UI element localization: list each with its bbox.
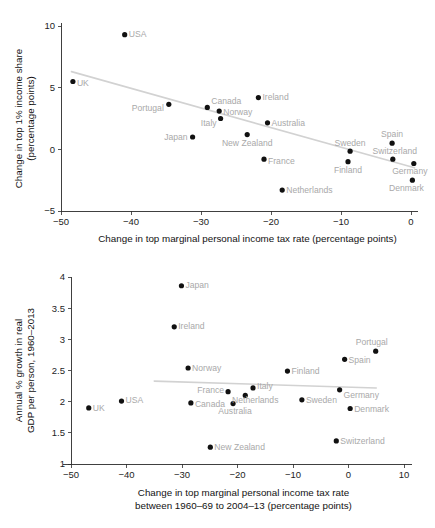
data-point-label: France [197, 385, 224, 395]
y-tick-label: 1 [60, 458, 65, 469]
data-point-label: USA [126, 395, 144, 405]
y-axis-title-line2: GDP per person, 1960–2013 [25, 307, 36, 433]
data-point[interactable] [285, 369, 290, 374]
data-point[interactable] [119, 398, 124, 403]
y-tick-label: −5 [44, 205, 55, 216]
data-point[interactable] [342, 357, 347, 362]
data-point-label: Ireland [178, 321, 204, 331]
y-tick-label: 4 [60, 271, 65, 282]
y-tick-label: 10 [44, 20, 55, 31]
y-tick-label: 2 [60, 396, 65, 407]
x-tick-label: −40 [123, 216, 139, 227]
y-axis-title-line1: Annual % growth in real [13, 319, 24, 422]
data-point[interactable] [186, 365, 191, 370]
data-point[interactable] [218, 116, 223, 121]
data-point[interactable] [250, 385, 255, 390]
data-point[interactable] [225, 389, 230, 394]
data-point-label: USA [129, 29, 147, 39]
data-point[interactable] [188, 400, 193, 405]
data-point-label: Australia [218, 406, 252, 416]
x-tick-label: 10 [399, 469, 410, 480]
data-point-label: Japan [164, 132, 188, 142]
y-tick-label: 3 [60, 334, 65, 345]
data-point-label: Sweden [306, 395, 337, 405]
x-tick-label: −10 [333, 216, 349, 227]
data-point-label: New Zealand [222, 138, 273, 148]
data-point[interactable] [172, 324, 177, 329]
data-point[interactable] [190, 134, 195, 139]
data-point[interactable] [122, 32, 127, 37]
data-point-label: Italy [257, 381, 273, 391]
y-tick-label: 1.5 [52, 427, 65, 438]
data-point[interactable] [299, 397, 304, 402]
data-point-label: Netherlands [286, 185, 332, 195]
data-point-label: Spain [349, 355, 371, 365]
data-point-label: Italy [201, 118, 217, 128]
x-tick-label: −20 [229, 469, 245, 480]
figure-page: 1050−5−50−40−30−20−100UKUSAPortugalJapan… [0, 0, 435, 528]
y-axis-title-line1: Change in top 1% income share [13, 48, 24, 188]
data-point[interactable] [334, 438, 339, 443]
data-point-label: Australia [272, 118, 306, 128]
data-point[interactable] [348, 406, 353, 411]
data-point-label: Sweden [335, 138, 366, 148]
data-point[interactable] [337, 387, 342, 392]
data-point[interactable] [205, 105, 210, 110]
data-point-label: Switzerland [373, 146, 418, 156]
data-point-label: Norway [223, 107, 253, 117]
x-axis-title-line1: Change in top marginal personal income t… [138, 487, 350, 498]
x-axis-title: Change in top marginal personal income t… [98, 233, 396, 244]
data-point-label: Japan [185, 280, 209, 290]
data-point[interactable] [265, 120, 270, 125]
data-point[interactable] [217, 109, 222, 114]
data-point[interactable] [256, 95, 261, 100]
data-point[interactable] [86, 405, 91, 410]
data-point[interactable] [345, 159, 350, 164]
y-tick-label: 0 [50, 144, 55, 155]
scatter-chart-income-share: 1050−5−50−40−30−20−100UKUSAPortugalJapan… [0, 0, 435, 264]
data-point-label: Norway [192, 363, 222, 373]
scatter-chart-gdp-growth: 43.532.521.51−50−40−30−20−10010UKUSAIrel… [0, 264, 435, 528]
data-point[interactable] [70, 79, 75, 84]
x-tick-label: −20 [263, 216, 279, 227]
chart-canvas-top: 1050−5−50−40−30−20−100UKUSAPortugalJapan… [0, 0, 435, 264]
y-axis-title-line2: (percentage points) [25, 76, 36, 160]
data-point[interactable] [410, 178, 415, 183]
x-tick-label: −40 [118, 469, 134, 480]
data-point-label: Portugal [132, 103, 164, 113]
data-point[interactable] [245, 132, 250, 137]
data-point[interactable] [373, 349, 378, 354]
data-point-label: Ireland [262, 92, 288, 102]
data-point-label: UK [93, 403, 105, 413]
x-tick-label: −10 [285, 469, 301, 480]
data-point-label: Spain [381, 129, 403, 139]
data-point-label: Germany [392, 166, 428, 176]
data-point-label: Netherlands [232, 395, 278, 405]
data-point-label: Denmark [354, 404, 390, 414]
data-point[interactable] [348, 149, 353, 154]
data-point[interactable] [280, 187, 285, 192]
data-point-label: Finland [291, 366, 319, 376]
trend-line [72, 72, 415, 168]
x-tick-label: 0 [408, 216, 413, 227]
data-point[interactable] [390, 157, 395, 162]
data-point-label: Switzerland [340, 436, 385, 446]
data-point[interactable] [208, 445, 213, 450]
y-tick-label: 5 [50, 82, 55, 93]
data-point[interactable] [179, 283, 184, 288]
data-point[interactable] [390, 141, 395, 146]
data-point[interactable] [166, 102, 171, 107]
data-point-label: Canada [211, 96, 241, 106]
y-tick-label: 3.5 [52, 303, 65, 314]
data-point-label: France [268, 156, 295, 166]
x-tick-label: 0 [346, 469, 351, 480]
data-point-label: UK [77, 78, 89, 88]
x-axis-title-line2: between 1960–69 to 2004–13 (percentage p… [135, 500, 352, 511]
x-tick-label: −30 [193, 216, 209, 227]
data-point-label: Germany [344, 390, 380, 400]
x-tick-label: −30 [174, 469, 190, 480]
data-point-label: Denmark [389, 183, 425, 193]
x-tick-label: −50 [63, 469, 79, 480]
data-point-label: New Zealand [214, 442, 265, 452]
data-point[interactable] [261, 157, 266, 162]
